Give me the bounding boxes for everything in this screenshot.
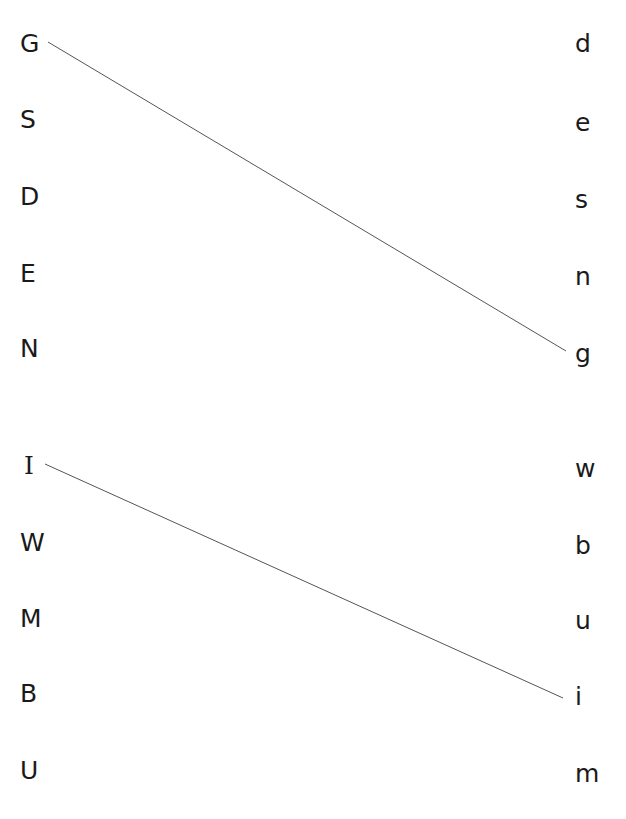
left-letter-E[interactable]: E xyxy=(20,259,36,289)
left-letter-W[interactable]: W xyxy=(20,528,45,558)
right-letter-s[interactable]: s xyxy=(575,185,588,215)
right-letter-g[interactable]: g xyxy=(575,339,591,369)
left-letter-U[interactable]: U xyxy=(20,756,38,786)
right-letter-n[interactable]: n xyxy=(575,262,591,292)
connection-line-I-i xyxy=(45,464,563,698)
connection-line-G-g xyxy=(48,42,566,351)
left-letter-G[interactable]: G xyxy=(20,29,39,59)
left-letter-N[interactable]: N xyxy=(20,334,39,364)
right-letter-d[interactable]: d xyxy=(575,29,591,59)
left-letter-B[interactable]: B xyxy=(20,679,37,709)
right-letter-u[interactable]: u xyxy=(575,606,591,636)
left-letter-D[interactable]: D xyxy=(20,182,39,212)
right-letter-i[interactable]: i xyxy=(575,682,582,712)
left-letter-M[interactable]: M xyxy=(20,604,42,634)
right-letter-w[interactable]: w xyxy=(575,454,595,484)
left-letter-S[interactable]: S xyxy=(20,105,36,135)
right-letter-m[interactable]: m xyxy=(575,759,599,789)
right-letter-e[interactable]: e xyxy=(575,108,590,138)
left-letter-I[interactable]: I xyxy=(24,451,34,481)
connection-lines xyxy=(0,0,626,819)
right-letter-b[interactable]: b xyxy=(575,531,591,561)
